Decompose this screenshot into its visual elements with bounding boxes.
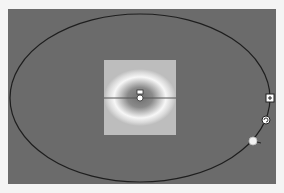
rotate-handle[interactable] bbox=[262, 116, 270, 124]
stretch-handle[interactable] bbox=[249, 137, 261, 145]
ellipse-overlay bbox=[0, 0, 284, 193]
center-handle-dot-icon[interactable] bbox=[137, 95, 143, 101]
circle-dot-icon[interactable] bbox=[249, 137, 257, 145]
center-handle-top-icon[interactable] bbox=[137, 90, 143, 94]
center-handle[interactable] bbox=[137, 90, 143, 101]
rotate-icon[interactable] bbox=[262, 116, 270, 124]
resize-handle[interactable] bbox=[266, 94, 274, 102]
